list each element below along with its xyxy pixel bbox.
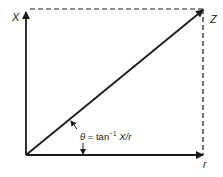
equals-tan: = tan [85,131,109,142]
x-axis-label: X [11,11,20,23]
z-label: Z [209,13,218,25]
r-axis-label: r [203,159,207,170]
angle-formula: θ = tan−1 X/r [80,130,132,142]
ratio-text: X/r [117,131,133,142]
impedance-triangle-diagram: X Z r θ = tan−1 X/r [0,0,223,177]
angle-upper-arrow [71,121,77,129]
